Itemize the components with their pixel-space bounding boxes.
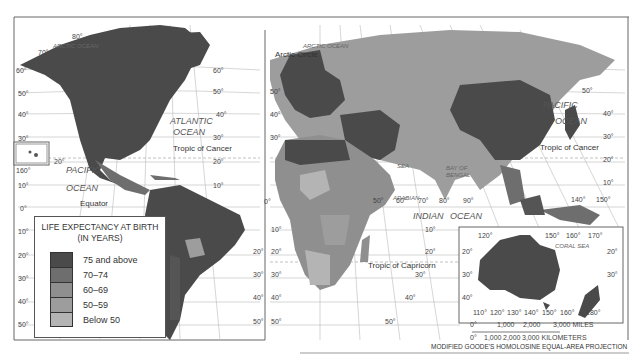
lon-label: 170° — [588, 232, 603, 239]
lat-label: 30° — [18, 275, 29, 282]
lat-label: 10° — [603, 179, 614, 186]
lat-label: 10° — [425, 226, 436, 233]
lon-label: 130° — [507, 309, 522, 316]
lon-label: 180° — [586, 309, 601, 316]
lon-label: 0° — [264, 198, 271, 205]
lon-label: 140° — [571, 196, 586, 203]
lat-label: 40° — [18, 298, 29, 305]
lat-label: 40° — [253, 294, 264, 301]
lat-label: 60° — [213, 67, 224, 74]
lat-label: 30° — [462, 271, 473, 278]
legend-swatch — [50, 312, 73, 327]
lat-label: 30° — [415, 271, 426, 278]
legend-label: 70–74 — [83, 270, 108, 280]
legend-label: 60–69 — [83, 285, 108, 295]
scale-km-3: 3,000 KILOMETERS — [522, 334, 587, 341]
lat-label: 50° — [18, 90, 29, 97]
atlantic-label-1: ATLANTIC — [169, 116, 213, 126]
legend-item: 50–59 — [50, 297, 138, 312]
lat-80: 80° — [72, 33, 83, 40]
pacific-left-label-1: PACIFIC — [66, 165, 101, 175]
lat-label: 20° — [18, 252, 29, 259]
lat-label: 30° — [270, 134, 281, 141]
lat-label: 40° — [462, 294, 473, 301]
scale-miles-0: 0° — [470, 321, 477, 328]
lat-label: 20° — [425, 248, 436, 255]
lon-160: 160° — [16, 167, 31, 174]
legend-swatch — [50, 282, 73, 297]
lat-70: 70° — [38, 49, 49, 56]
legend-item: 75 and above — [50, 252, 138, 267]
legend-swatch — [50, 297, 73, 312]
arctic-circle-label: Arctic Circle — [275, 50, 318, 59]
lat-label: 40° — [271, 294, 282, 301]
scale-bar: 0° 1,000 2,000 3,000 MILES 0° 1,000 2,00… — [470, 321, 594, 341]
lat-label: 40° — [270, 111, 281, 118]
lat-label: 40° — [603, 110, 614, 117]
lat-label: 20° — [271, 248, 282, 255]
scale-km-2: 2,000 — [503, 334, 521, 341]
lon-label: 80° — [439, 197, 450, 204]
legend-swatch — [50, 267, 73, 282]
lon-label: 150° — [596, 196, 611, 203]
equator-label: Equator — [80, 199, 108, 208]
lon-label: 50° — [373, 197, 384, 204]
arabian-sea-1: ARABIAN — [392, 195, 420, 201]
lat-label: 20° — [253, 248, 264, 255]
lat-label: 40° — [216, 111, 227, 118]
legend-label: 75 and above — [83, 255, 138, 265]
scale-miles-2: 2,000 — [523, 321, 541, 328]
lon-label: 150° — [545, 232, 560, 239]
legend-title-line1: LIFE EXPECTANCY AT BIRTH — [35, 222, 165, 233]
scale-km-1: 1,000 — [484, 334, 502, 341]
lat-label: 20° — [213, 158, 224, 165]
lat-label: 60° — [16, 67, 27, 74]
lon-label: 140° — [524, 309, 539, 316]
lat-label: 30° — [271, 271, 282, 278]
lat-label: 10° — [271, 226, 282, 233]
bengal-1: BAY OF — [446, 165, 468, 171]
legend-swatch — [50, 252, 73, 267]
lat-label: 0° — [20, 205, 27, 212]
lat-label: 20° — [603, 156, 614, 163]
atlantic-label-2: OCEAN — [173, 127, 206, 137]
projection-credit: MODIFIED GOODE'S HOMOLOSINE EQUAL-AREA P… — [431, 343, 627, 350]
lat-label: 10° — [18, 182, 29, 189]
lat-label: 20° — [462, 248, 473, 255]
lat-label: 40° — [405, 294, 416, 301]
pacific-right-label-2: OCEAN — [555, 116, 588, 126]
legend-item: 70–74 — [50, 267, 138, 282]
lon-label: 70° — [418, 197, 429, 204]
lat-label: 30° — [607, 271, 618, 278]
lat-label: 30° — [18, 135, 29, 142]
lon-label: 120° — [478, 232, 493, 239]
lon-label: 160° — [566, 232, 581, 239]
bengal-2: BENGAL — [446, 172, 470, 178]
lat-label: 10° — [18, 228, 29, 235]
lon-label: 120° — [490, 309, 505, 316]
coral-sea-label: CORAL SEA — [555, 243, 589, 249]
pacific-left-label-2: OCEAN — [66, 183, 99, 193]
lat-label: 40° — [18, 111, 29, 118]
pacific-right-label-1: PACIFIC — [543, 100, 578, 110]
lon-label: 160° — [560, 309, 575, 316]
legend-title: LIFE EXPECTANCY AT BIRTH (IN YEARS) — [35, 222, 165, 244]
legend-title-line2: (IN YEARS) — [35, 233, 165, 244]
indian-ocean-label: INDIAN — [413, 211, 444, 221]
lon-label: 90° — [463, 197, 474, 204]
legend-label: 50–59 — [83, 300, 108, 310]
lat-label: 30° — [603, 133, 614, 140]
lat-label: 50° — [582, 87, 593, 94]
lon-label: 110° — [473, 309, 487, 316]
arctic-ocean-right-label: ARCTIC OCEAN — [302, 43, 349, 49]
lat-label: 10° — [213, 182, 224, 189]
tropic-capricorn-label: Tropic of Capricorn — [368, 261, 436, 270]
lat-label: 50° — [18, 321, 29, 328]
legend-label: Below 50 — [83, 315, 120, 325]
scale-miles-1: 1,000 — [497, 321, 515, 328]
indian-ocean-label-2: OCEAN — [450, 211, 483, 221]
legend-item: 60–69 — [50, 282, 138, 297]
arabian-sea-2: SEA — [397, 163, 409, 169]
tropic-cancer-right: Tropic of Cancer — [540, 143, 599, 152]
arctic-ocean-left-label: ARCTIC OCEAN — [52, 43, 99, 49]
